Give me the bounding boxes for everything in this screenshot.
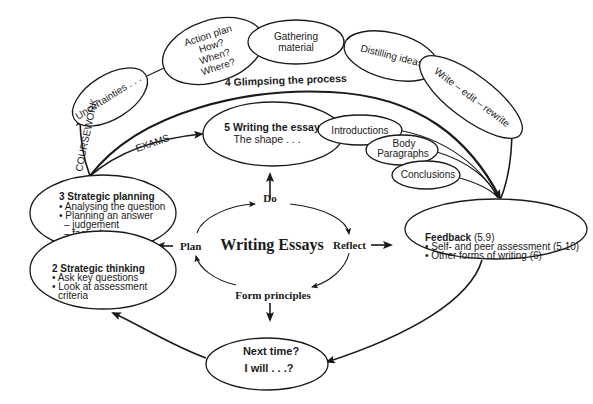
central-title: Writing Essays [220,236,323,254]
exams-label: EXAMS [134,132,171,154]
cycle-reflect-to-form [312,253,349,287]
svg-text:The shape . . .: The shape . . . [233,133,300,145]
writing-essays-diagram: Uncertainties . . . Action plan How? Whe… [0,0,593,404]
cycle-form-to-plan [196,256,236,285]
svg-text:Introductions: Introductions [331,125,388,136]
glimpsing-process-label: 4 Glimpsing the process [225,72,347,88]
svg-text:Conclusions: Conclusions [401,169,455,180]
svg-text:I will . . .?: I will . . .? [245,362,294,374]
feedback-node: Feedback (5.9) • Self- and peer assessme… [405,199,587,261]
essay-part-conclusions: Conclusions [392,161,460,189]
cycle-do-label: Do [263,192,277,204]
next-time-node: Next time? I will . . .? [206,338,328,390]
process-step-uncertainties: Uncertainties . . . [63,56,158,138]
svg-text:criteria: criteria [58,290,88,301]
feedback-to-next-time-arrow [327,260,482,362]
svg-text:• Other forms of writing (6): • Other forms of writing (6) [425,250,542,261]
svg-text:Gathering: Gathering [274,31,318,42]
strategic-thinking-node: 2 Strategic thinking • Ask key questions… [30,231,176,309]
cycle-plan-to-do [197,204,255,233]
svg-text:Paragraphs: Paragraphs [377,148,429,159]
svg-text:Next time?: Next time? [243,345,300,357]
cycle-reflect-label: Reflect [333,239,366,251]
svg-text:5 Writing the essay: 5 Writing the essay [224,121,320,133]
next-time-to-thinking-arrow [113,313,206,358]
process-step-write-edit-rewrite: Write – edit – rewrite [408,42,534,152]
connector-line [147,67,166,76]
cycle-form-principles-label: Form principles [235,289,311,301]
process-step-gathering-material: Gathering material [248,20,344,64]
svg-text:material: material [278,42,314,53]
cycle-plan-label: Plan [180,240,201,252]
cycle-do-to-reflect [290,204,349,234]
